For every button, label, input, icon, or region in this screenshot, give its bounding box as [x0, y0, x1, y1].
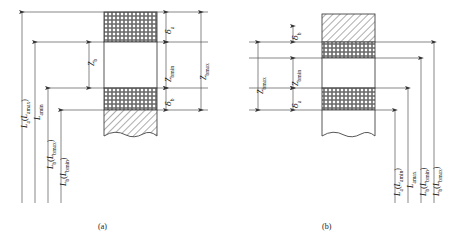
panel-a-base-body [104, 110, 157, 137]
label-b-Lb-Lbmin: Lb(Lbmin) [419, 167, 430, 196]
label-a-Zb: Zb [87, 59, 98, 66]
panel-b-base-body [322, 14, 375, 42]
caption-panel-b: (b) [322, 222, 331, 231]
panel-b-left-dimension-lines [258, 26, 293, 110]
label-a-La-Lamax: La(Lamax) [20, 99, 31, 128]
label-b-Zbmax: Zbmax [256, 77, 267, 94]
label-a-Lamin: Lamin [33, 104, 44, 120]
panel-a-upper-shim [104, 12, 157, 42]
label-a-Zbmin: Zbmin [164, 66, 175, 82]
label-b-Zbmin: Zbmin [291, 70, 302, 86]
label-b-Lamax: Lamax [406, 171, 417, 188]
panel-a-gap-band [104, 42, 157, 88]
label-a-Zbmax: Zbmax [199, 63, 210, 80]
caption-panel-a: (a) [98, 222, 107, 231]
label-a-delta-a: δa [164, 27, 175, 34]
panel-b-upper-shim [322, 42, 375, 58]
panel-b-break-body [322, 110, 375, 137]
label-b-La-Lamin: La(Lamin) [393, 168, 404, 196]
figure-container: La(Lamax) Lamin Lb(Lbmax) Lb(Lbmin) Zb δ… [0, 0, 456, 247]
label-a-Lb-Lbmin: Lb(Lbmin) [59, 157, 70, 186]
label-a-Lb-Lbmax: Lb(Lbmax) [46, 140, 57, 169]
label-a-delta-b: δb [164, 98, 175, 106]
panel-a-lower-shim [104, 88, 157, 110]
label-b-Lb-Lbmax: Lb(Lbmax) [432, 167, 443, 196]
label-b-delta-a: δa [291, 101, 302, 108]
panel-b-lower-shim [322, 88, 375, 110]
panel-b-gap-band [322, 58, 375, 88]
panel-a [22, 12, 208, 203]
label-b-delta-b: δb [291, 32, 302, 40]
diagram-canvas [0, 0, 456, 247]
